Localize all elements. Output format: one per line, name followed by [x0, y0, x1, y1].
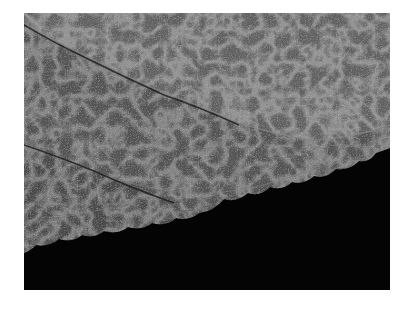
leaf-photo	[24, 13, 390, 290]
leaf-illustration	[24, 13, 390, 290]
